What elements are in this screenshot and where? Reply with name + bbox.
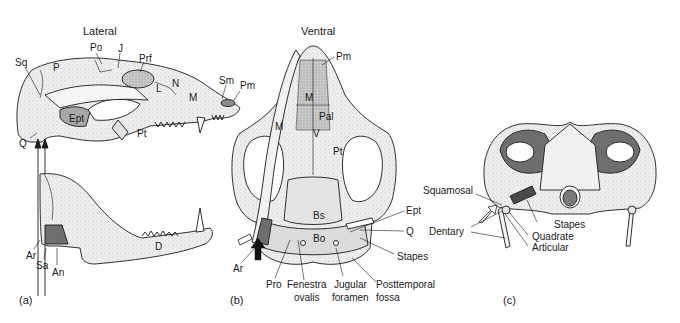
label-prootic: Pro	[266, 279, 282, 290]
panel-a-title: Lateral	[83, 25, 117, 37]
label-angular-abbr: An	[52, 267, 64, 278]
label-basioccipital-abbr: Bo	[313, 233, 325, 244]
label-postorbital-abbr: Po	[90, 42, 102, 53]
label-pterygoid-ventral: Pt	[333, 146, 342, 157]
label-maxilla-ventral-inner: M	[305, 92, 313, 103]
label-jugular-foramen-line2: foramen	[332, 292, 369, 303]
label-jugular-foramen-line1: Jugular	[334, 279, 367, 290]
label-epipterygoid-abbr: Ept	[69, 113, 84, 124]
articulation-arrow-outline	[479, 205, 497, 223]
label-quadrate-abbr: Q	[19, 138, 27, 149]
lateral-mandible	[40, 174, 212, 264]
panel-c-letter: (c)	[503, 294, 516, 306]
label-stapes: Stapes	[554, 219, 585, 230]
label-palatine-abbr: Pal	[319, 111, 333, 122]
label-jugal-abbr: J	[118, 43, 123, 54]
lateral-skull-cranium	[17, 58, 240, 142]
panel-b-letter: (b)	[230, 294, 243, 306]
label-articular-ventral: Ar	[233, 263, 243, 274]
label-squamosal-abbr: Sq	[15, 57, 27, 68]
label-premaxilla-abbr: Pm	[240, 80, 255, 91]
label-quadrate: Quadrate	[532, 231, 574, 242]
label-articular: Articular	[532, 242, 569, 253]
label-parietal-abbr: P	[53, 62, 60, 73]
label-septomaxilla-abbr: Sm	[219, 75, 234, 86]
label-surangular-abbr: Sa	[36, 260, 48, 271]
label-epipterygoid-ventral: Ept	[406, 205, 421, 216]
label-vomer-abbr: V	[313, 128, 320, 139]
label-quadrate-ventral: Q	[406, 226, 414, 237]
label-nasal-abbr: N	[172, 78, 179, 89]
label-lacrimal-abbr: L	[156, 83, 162, 94]
label-maxilla-abbr: M	[189, 92, 197, 103]
label-premaxilla-ventral: Pm	[336, 51, 351, 62]
panel-b-title: Ventral	[301, 25, 335, 37]
label-squamosal: Squamosal	[423, 185, 473, 196]
label-pterygoid-abbr: Pt	[137, 128, 146, 139]
ventral-skull	[232, 46, 396, 264]
panel-a-letter: (a)	[19, 294, 32, 306]
label-dentary-abbr: D	[155, 241, 162, 252]
label-prefrontal-abbr: Prf	[139, 53, 152, 64]
label-fenestra-ovalis-line1: Fenestra	[287, 279, 326, 290]
label-posttemporal-fossa-line2: fossa	[376, 292, 400, 303]
label-maxilla-ventral-outer: M	[275, 121, 283, 132]
label-fenestra-ovalis-line2: ovalis	[294, 292, 320, 303]
label-basisphenoid-abbr: Bs	[313, 210, 325, 221]
label-stapes-ventral: Stapes	[397, 251, 428, 262]
label-articular-abbr: Ar	[26, 250, 36, 261]
label-dentary: Dentary	[429, 226, 464, 237]
label-posttemporal-fossa-line1: Posttemporal	[376, 279, 435, 290]
